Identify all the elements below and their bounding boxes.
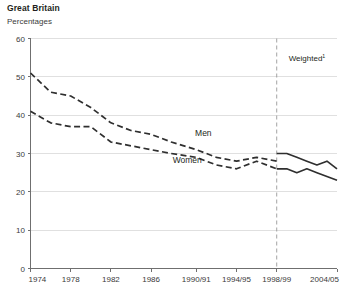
- gridlines-group: [31, 39, 338, 231]
- weighted-annotation-label: Weighted1: [289, 53, 326, 63]
- x-tick-label: 1974: [29, 275, 47, 284]
- x-tick-label: 1998/99: [262, 275, 291, 284]
- x-tick-label: 1982: [102, 275, 120, 284]
- x-tick-label: 1978: [62, 275, 80, 284]
- series-line-women-unweighted: [31, 111, 277, 169]
- x-tick-labels-group: 19741978198219861990/911994/951998/99200…: [29, 269, 340, 284]
- series-labels-group: MenWomen: [173, 128, 212, 166]
- x-tick-label: 1990/91: [182, 275, 211, 284]
- series-label-men: Men: [195, 128, 212, 138]
- x-tick-label: 2004/05: [310, 275, 339, 284]
- series-line-women-weighted: [277, 169, 337, 181]
- y-tick-label: 0: [21, 265, 26, 274]
- weighted-footnote-marker: 1: [322, 53, 325, 59]
- y-tick-label: 40: [16, 111, 25, 120]
- x-tick-label: 1986: [142, 275, 160, 284]
- line-chart-svg: 0102030405060 19741978198219861990/91199…: [0, 0, 355, 297]
- y-tick-labels-group: 0102030405060: [16, 35, 30, 274]
- x-tick-label: 1994/95: [222, 275, 251, 284]
- y-tick-label: 60: [16, 35, 25, 44]
- y-tick-label: 30: [16, 150, 25, 159]
- series-label-women: Women: [173, 155, 202, 165]
- chart-container: Great Britain Percentages 0102030405060 …: [0, 0, 355, 297]
- y-tick-label: 50: [16, 73, 25, 82]
- y-tick-label: 10: [16, 226, 25, 235]
- series-line-men-weighted: [277, 154, 337, 169]
- weighted-annotation-group: Weighted1: [289, 53, 326, 63]
- y-tick-label: 20: [16, 188, 25, 197]
- series-line-men-unweighted: [31, 73, 277, 161]
